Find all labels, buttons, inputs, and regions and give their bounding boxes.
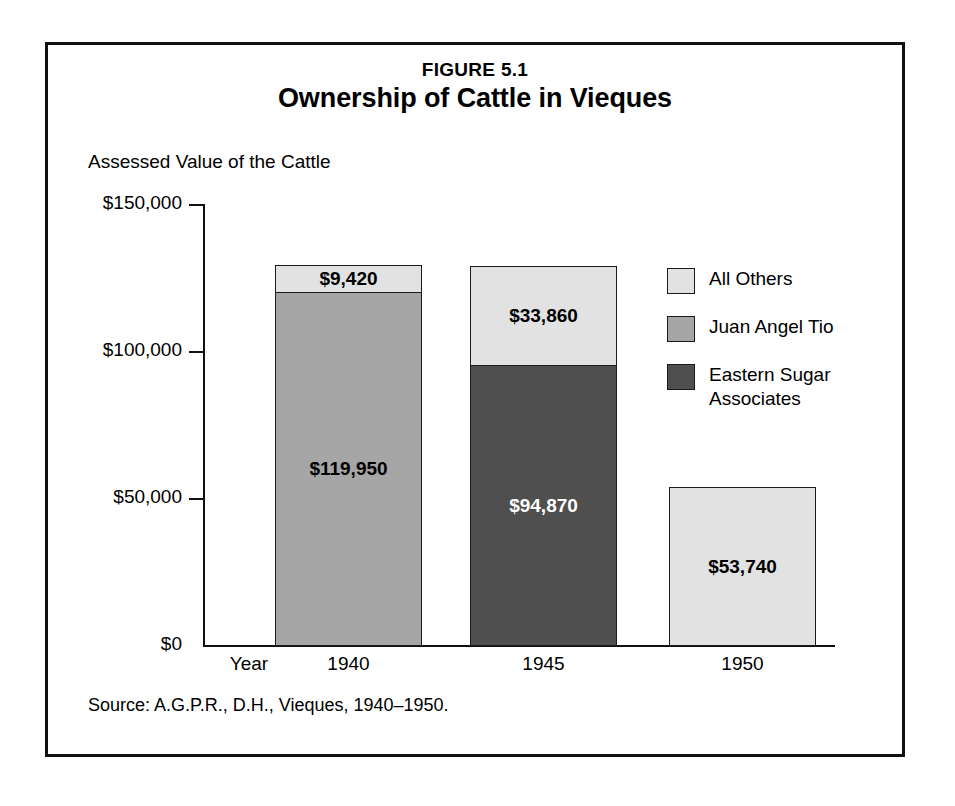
x-category-label-1940: 1940 — [275, 653, 422, 675]
legend-label-line2: Associates — [709, 387, 830, 411]
x-category-label-1950: 1950 — [669, 653, 816, 675]
legend-label-line1: Eastern Sugar — [709, 363, 830, 387]
y-tick-0: $0 — [48, 645, 204, 647]
bar-value-label: $9,420 — [319, 268, 377, 290]
legend-item-all-others[interactable]: All Others — [667, 267, 882, 294]
bar-value-label: $33,860 — [509, 305, 578, 327]
legend-label-group: Eastern Sugar Associates — [709, 363, 830, 411]
y-axis-line — [203, 204, 205, 647]
y-tick-label: $100,000 — [48, 339, 204, 361]
y-tick-label: $0 — [48, 633, 204, 655]
figure-frame: FIGURE 5.1 Ownership of Cattle in Vieque… — [45, 42, 905, 757]
source-note: Source: A.G.P.R., D.H., Vieques, 1940–19… — [88, 695, 449, 716]
y-tick-150000: $150,000 — [48, 204, 204, 206]
x-category-label-1945: 1945 — [470, 653, 617, 675]
legend-swatch-icon — [667, 364, 695, 390]
legend-item-juan-angel-tio[interactable]: Juan Angel Tio — [667, 315, 882, 342]
legend-label: Juan Angel Tio — [709, 315, 834, 339]
legend-item-eastern-sugar-associates[interactable]: Eastern Sugar Associates — [667, 363, 882, 411]
legend-label: All Others — [709, 267, 792, 291]
bar-value-label: $119,950 — [309, 458, 387, 480]
bar-value-label: $94,870 — [509, 495, 578, 517]
bar-1950-segment-all-others[interactable]: $53,740 — [669, 487, 816, 646]
y-tick-label: $50,000 — [48, 486, 204, 508]
legend: All Others Juan Angel Tio Eastern Sugar … — [667, 267, 882, 432]
legend-swatch-icon — [667, 316, 695, 342]
legend-swatch-icon — [667, 268, 695, 294]
y-tick-50000: $50,000 — [48, 498, 204, 500]
y-tick-100000: $100,000 — [48, 351, 204, 353]
plot-area: $150,000 $100,000 $50,000 $0 $9,420 $119… — [48, 45, 902, 754]
bar-1940-segment-juan-angel-tio[interactable]: $119,950 — [275, 292, 422, 646]
bar-value-label: $53,740 — [708, 556, 777, 578]
bar-1940-segment-all-others[interactable]: $9,420 — [275, 265, 422, 293]
bar-1945-segment-eastern-sugar-associates[interactable]: $94,870 — [470, 365, 617, 646]
bar-1945-segment-all-others[interactable]: $33,860 — [470, 266, 617, 366]
y-tick-label: $150,000 — [48, 192, 204, 214]
